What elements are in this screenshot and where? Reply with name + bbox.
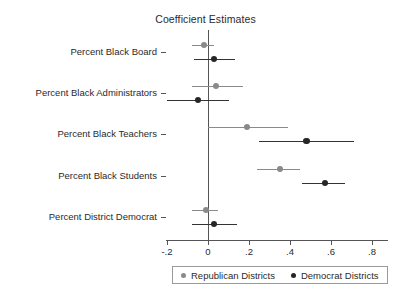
estimate-point-marker [322, 180, 329, 187]
coefficient-plot-figure: Coefficient Estimates -.20.2.4.6.8 Perce… [0, 0, 411, 300]
y-axis-category-label: Percent Black Students [0, 170, 157, 181]
estimate-point-marker [213, 83, 219, 89]
x-axis-line [166, 240, 388, 241]
plot-area [166, 30, 388, 240]
y-axis-tick [161, 52, 166, 53]
y-axis-category-label: Percent Black Teachers [0, 128, 157, 139]
y-axis-category-label: Percent Black Administrators [0, 87, 157, 98]
x-axis-tick [167, 241, 168, 245]
x-axis-tick [249, 241, 250, 245]
chart-title: Coefficient Estimates [0, 13, 411, 25]
legend-item-republican[interactable]: Republican Districts [181, 270, 275, 281]
estimate-point-marker [303, 138, 310, 145]
y-axis-tick [161, 93, 166, 94]
x-axis-tick-label: 0 [188, 246, 228, 257]
estimate-point-marker [211, 56, 218, 63]
x-axis-tick-label: .4 [270, 246, 310, 257]
y-axis-category-label: Percent District Democrat [0, 211, 157, 222]
estimate-point-marker [203, 207, 209, 213]
legend-item-label: Democrat Districts [301, 270, 379, 281]
x-axis-tick-label: -.2 [147, 246, 187, 257]
y-axis-tick [161, 217, 166, 218]
estimate-point-marker [211, 221, 218, 228]
x-axis-tick [208, 241, 209, 245]
legend-item-democrat[interactable]: Democrat Districts [291, 270, 379, 281]
x-axis-tick [372, 241, 373, 245]
y-axis-category-label: Percent Black Board [0, 46, 157, 57]
x-axis-tick [290, 241, 291, 245]
x-axis-tick [331, 241, 332, 245]
y-axis-tick [161, 176, 166, 177]
chart-legend: Republican DistrictsDemocrat Districts [172, 266, 388, 284]
estimate-point-marker [201, 42, 207, 48]
legend-item-label: Republican Districts [191, 270, 275, 281]
estimate-point-marker [244, 124, 250, 130]
x-axis-tick-label: .6 [311, 246, 351, 257]
gray-dot-icon [181, 273, 186, 278]
estimate-point-marker [277, 166, 283, 172]
x-axis-tick-label: .8 [352, 246, 392, 257]
black-dot-icon [291, 273, 296, 278]
x-axis-tick-label: .2 [229, 246, 269, 257]
y-axis-tick [161, 134, 166, 135]
estimate-point-marker [195, 97, 202, 104]
